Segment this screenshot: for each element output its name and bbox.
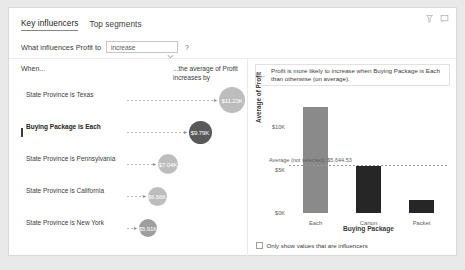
- influencer-row[interactable]: State Province is New York▸$5.91K: [9, 217, 247, 249]
- influencer-row[interactable]: State Province is Pennsylvania▸$7.04K: [9, 153, 247, 185]
- tab-top-segments[interactable]: Top segments: [89, 20, 141, 31]
- detail-bar-chart: Average of Profit $0K$5K$10K EachCartonP…: [255, 91, 450, 231]
- question-direction-select[interactable]: increase: [106, 41, 178, 53]
- influencer-label: State Province is California: [26, 187, 124, 195]
- influencers-headers: When... ...the average of Profit increas…: [21, 65, 239, 87]
- question-label: What influences Profit to: [21, 43, 101, 52]
- chart-y-tick: $5K: [265, 167, 285, 173]
- influencer-bubble[interactable]: $6.66K: [148, 187, 167, 206]
- chart-average-line: [289, 165, 448, 166]
- influencer-value: $11.23K: [221, 97, 242, 104]
- connector-arrow-icon: ▸: [153, 161, 156, 167]
- effect-header: ...the average of Profit increases by: [173, 65, 257, 82]
- filter-icon[interactable]: [425, 14, 434, 23]
- chart-y-tick: $10K: [265, 124, 285, 130]
- influencer-label: State Province is New York: [26, 219, 124, 227]
- connector-arrow-icon: ▸: [134, 225, 137, 231]
- chart-y-tick: $0K: [265, 210, 285, 216]
- chart-average-label: Average (not selected): $5,644.53: [269, 157, 352, 163]
- connector-line: [127, 196, 144, 197]
- influencer-row[interactable]: State Province is Texas▸$11.23K: [9, 89, 247, 121]
- influencer-value: $9.79K: [191, 129, 209, 136]
- influencer-bubble[interactable]: $5.91K: [139, 219, 157, 237]
- influencer-bubble[interactable]: $11.23K: [219, 87, 245, 113]
- influencer-row[interactable]: State Province is California▸$6.66K: [9, 185, 247, 217]
- influencer-row[interactable]: Buying Package is Each▸$9.79K: [9, 121, 247, 153]
- selected-accent-bar: [21, 128, 23, 137]
- tab-key-influencers[interactable]: Key influencers: [21, 19, 78, 31]
- connector-arrow-icon: ▸: [184, 129, 187, 135]
- only-influencers-checkbox[interactable]: Only show values that are influencers: [256, 242, 368, 249]
- question-direction-value: increase: [107, 44, 135, 51]
- influencer-value: $5.91K: [139, 225, 157, 232]
- chart-y-axis-label: Average of Profit: [255, 72, 262, 123]
- influencers-panel: When... ...the average of Profit increas…: [9, 59, 247, 256]
- influencer-label: Buying Package is Each: [26, 123, 124, 131]
- connector-line: [127, 164, 154, 165]
- screenshot-canvas: Key influencers Top segments What influe…: [0, 0, 465, 270]
- question-row: What influences Profit to increase ?: [21, 41, 191, 53]
- visual-header-actions: [425, 14, 449, 23]
- when-header: When...: [21, 65, 45, 72]
- influencer-label: State Province is Pennsylvania: [26, 155, 124, 163]
- key-influencers-visual: Key influencers Top segments What influe…: [8, 7, 457, 256]
- explanation-text: Profit is more likely to increase when B…: [271, 67, 445, 83]
- chart-x-axis-label: Buying Package: [289, 225, 448, 232]
- detail-panel: ← Profit is more likely to increase when…: [248, 59, 456, 256]
- focus-mode-icon[interactable]: [440, 14, 449, 23]
- checkbox-label: Only show values that are influencers: [267, 242, 368, 249]
- influencer-bubble[interactable]: $7.04K: [158, 154, 178, 174]
- connector-line: [127, 100, 215, 101]
- connector-arrow-icon: ▸: [214, 97, 217, 103]
- explanation-box: ← Profit is more likely to increase when…: [255, 64, 450, 86]
- influencer-value: $7.04K: [159, 161, 177, 168]
- chart-bar[interactable]: [409, 200, 434, 213]
- checkbox-box[interactable]: [256, 242, 263, 249]
- influencer-bubble[interactable]: $9.79K: [189, 121, 212, 144]
- connector-line: [127, 132, 185, 133]
- influencer-list: State Province is Texas▸$11.23KBuying Pa…: [9, 89, 247, 249]
- chart-plot-area: EachCartonPacketAverage (not selected): …: [289, 93, 448, 213]
- influencer-value: $6.66K: [148, 193, 166, 200]
- influencer-label: State Province is Texas: [26, 91, 124, 99]
- help-icon[interactable]: ?: [183, 44, 191, 51]
- visual-tabs: Key influencers Top segments: [21, 19, 142, 31]
- connector-arrow-icon: ▸: [143, 193, 146, 199]
- chart-bar[interactable]: [356, 166, 381, 213]
